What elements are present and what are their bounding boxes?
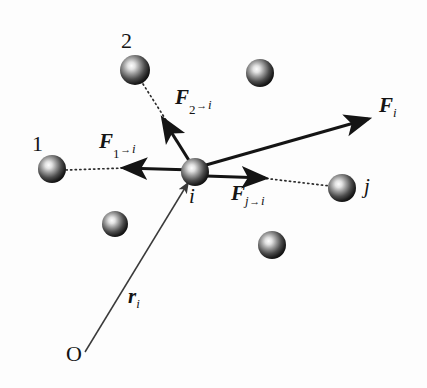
line-of-action-1 [66, 168, 126, 170]
particle-2-label: 2 [121, 30, 132, 52]
line-of-action-j [262, 178, 330, 186]
force-total-i-arrow [206, 119, 368, 165]
particle-2 [120, 55, 150, 85]
force-j-to-i-arrow [206, 176, 265, 178]
particle-top-right [246, 59, 274, 87]
particle-i [181, 158, 209, 186]
particle-j-label: j [364, 176, 370, 197]
force-1-to-i-label: F1→i [99, 131, 136, 152]
force-total-i-label: Fi [379, 95, 397, 116]
particle-j [328, 174, 356, 202]
force-2-to-i-label: F2→i [175, 87, 212, 108]
origin-label: O [66, 343, 82, 365]
force-j-to-i-label: Fj→i [231, 183, 265, 204]
position-vector-label: ri [128, 286, 140, 307]
position-vector-r-i [85, 183, 188, 352]
line-of-action-2 [143, 84, 166, 120]
particle-lower-left [102, 211, 128, 237]
force-diagram-figure: 2 1 i j O F1→i F2→i Fj→i Fi ri [0, 0, 427, 388]
force-2-to-i-arrow [163, 119, 190, 162]
diagram-canvas [0, 0, 427, 388]
particle-1-label: 1 [32, 133, 43, 155]
particle-i-label: i [189, 186, 195, 207]
particle-1 [38, 155, 66, 183]
particles-group [38, 55, 356, 259]
particle-bottom-mid [258, 231, 286, 259]
